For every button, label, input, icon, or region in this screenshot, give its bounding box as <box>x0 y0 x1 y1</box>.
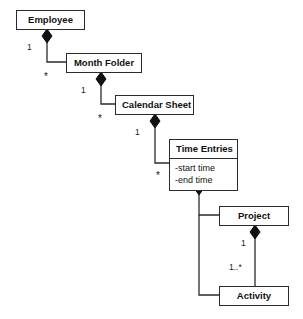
class-name-time-entries: Time Entries <box>170 140 237 158</box>
edge-time-entries-project-activity <box>194 181 219 295</box>
multiplicity-activity-1-star: 1..* <box>229 263 242 272</box>
relationship-edges <box>0 0 303 319</box>
attribute-end-time: -end time <box>175 174 232 186</box>
edge-project-activity <box>250 225 260 286</box>
multiplicity-time-entries-star: * <box>156 171 160 181</box>
edge-calendar-sheet-time-entries <box>150 114 169 163</box>
composition-diamond-month-folder <box>96 72 106 86</box>
class-box-time-entries[interactable]: Time Entries -start time -end time <box>169 139 238 191</box>
class-box-month-folder[interactable]: Month Folder <box>66 53 142 73</box>
multiplicity-employee-1: 1 <box>27 43 32 52</box>
composition-diamond-calendar-sheet <box>150 114 160 128</box>
edge-employee-month-folder <box>42 29 66 62</box>
composition-diamond-project <box>250 225 260 239</box>
multiplicity-project-1: 1 <box>241 239 246 248</box>
multiplicity-month-folder-star: * <box>44 72 48 82</box>
multiplicity-calendar-sheet-star: * <box>98 114 102 124</box>
class-box-project[interactable]: Project <box>219 206 289 226</box>
class-name-project: Project <box>220 207 288 225</box>
class-attributes-time-entries: -start time -end time <box>170 158 237 190</box>
class-name-activity: Activity <box>220 287 288 305</box>
edge-month-folder-calendar-sheet <box>96 72 115 104</box>
multiplicity-month-folder-1: 1 <box>81 86 86 95</box>
multiplicity-calendar-sheet-1: 1 <box>135 128 140 137</box>
class-box-activity[interactable]: Activity <box>219 286 289 306</box>
class-box-calendar-sheet[interactable]: Calendar Sheet <box>115 95 194 115</box>
class-box-employee[interactable]: Employee <box>16 10 85 30</box>
class-name-calendar-sheet: Calendar Sheet <box>116 96 193 114</box>
composition-diamond-employee <box>42 29 52 43</box>
class-name-month-folder: Month Folder <box>67 54 141 72</box>
uml-class-diagram: Employee Month Folder Calendar Sheet Tim… <box>0 0 303 319</box>
attribute-start-time: -start time <box>175 162 232 174</box>
class-name-employee: Employee <box>17 11 84 29</box>
